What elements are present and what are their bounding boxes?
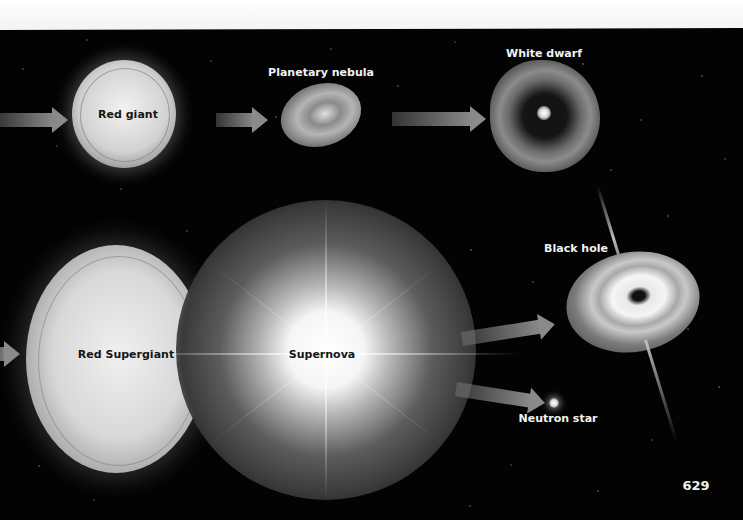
neutron-star bbox=[549, 398, 559, 408]
black-hole-label: Black hole bbox=[544, 242, 608, 255]
arrow-nebula-to-white-dwarf bbox=[392, 112, 472, 126]
arrow-into-red-supergiant bbox=[0, 347, 6, 361]
red-giant-label: Red giant bbox=[98, 108, 158, 121]
page-margin bbox=[0, 0, 743, 30]
page-number: 629 bbox=[682, 478, 709, 493]
red-supergiant-label: Red Supergiant bbox=[78, 348, 174, 361]
planetary-nebula-label: Planetary nebula bbox=[268, 66, 374, 79]
white-dwarf-star bbox=[537, 106, 551, 120]
white-dwarf-label: White dwarf bbox=[506, 47, 582, 60]
supernova-label: Supernova bbox=[289, 348, 356, 361]
neutron-star-label: Neutron star bbox=[518, 412, 597, 425]
arrow-into-red-giant bbox=[0, 113, 54, 127]
arrow-red-giant-to-nebula bbox=[216, 113, 254, 127]
